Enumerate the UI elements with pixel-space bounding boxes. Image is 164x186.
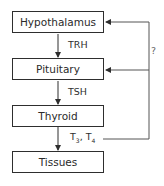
- edge-label-trh: TRH: [68, 39, 88, 50]
- node-label: Thyroid: [38, 110, 77, 122]
- edge-label-tsh: TSH: [68, 86, 87, 97]
- node-hypothalamus: Hypothalamus: [12, 11, 104, 33]
- node-label: Pituitary: [36, 63, 80, 75]
- node-label: Hypothalamus: [20, 16, 96, 28]
- node-thyroid: Thyroid: [12, 105, 104, 127]
- node-tissues: Tissues: [12, 151, 104, 173]
- node-pituitary: Pituitary: [12, 58, 104, 80]
- node-label: Tissues: [39, 156, 78, 168]
- edge-label-t3-t4: T3, T4: [70, 131, 95, 144]
- edge-label-question: ?: [151, 45, 156, 56]
